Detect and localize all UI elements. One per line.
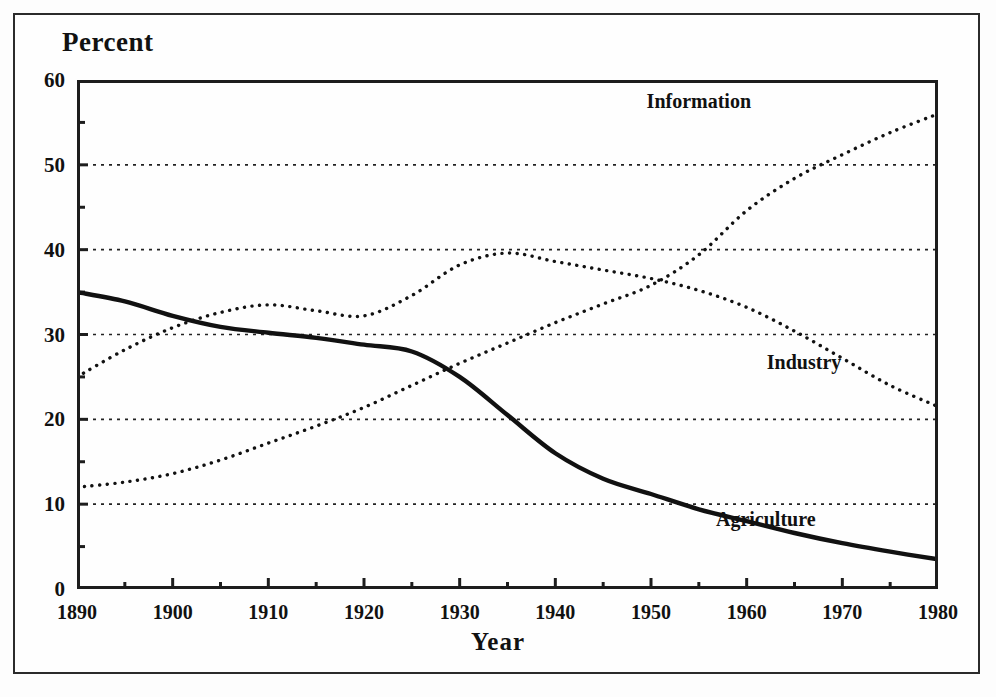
x-axis-title: Year [0, 628, 996, 656]
y-tick-50: 50 [19, 152, 65, 177]
y-tick-0: 0 [19, 577, 65, 602]
y-tick-20: 20 [19, 407, 65, 432]
x-tick-1920: 1920 [324, 601, 404, 624]
series-label-agriculture: Agriculture [716, 508, 816, 531]
x-tick-1930: 1930 [420, 601, 500, 624]
x-tick-1940: 1940 [515, 601, 595, 624]
y-tick-60: 60 [19, 68, 65, 93]
x-tick-1910: 1910 [228, 601, 308, 624]
x-tick-1980: 1980 [898, 601, 978, 624]
x-tick-1900: 1900 [133, 601, 213, 624]
x-tick-1890: 1890 [37, 601, 117, 624]
figure: Percent 6050403020100 189019001910192019… [0, 0, 996, 697]
x-tick-1950: 1950 [611, 601, 691, 624]
y-tick-40: 40 [19, 237, 65, 262]
series-label-information: Information [647, 90, 751, 113]
plot-area: 6050403020100 18901900191019201930194019… [77, 80, 938, 589]
x-tick-1960: 1960 [707, 601, 787, 624]
y-axis-title: Percent [62, 27, 153, 58]
series-label-industry: Industry [767, 350, 841, 373]
y-tick-10: 10 [19, 492, 65, 517]
x-tick-1970: 1970 [802, 601, 882, 624]
y-tick-30: 30 [19, 322, 65, 347]
